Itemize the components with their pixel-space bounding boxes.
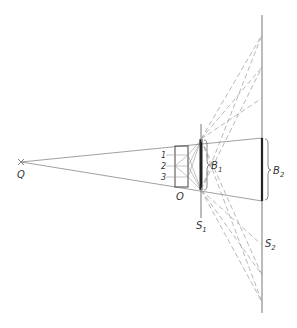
label-row-2: 2	[161, 162, 166, 171]
projection-diagram: Q O 1 2 3 B1 B2 S1 S2	[0, 0, 297, 328]
ray-upper	[21, 138, 262, 162]
label-o: O	[176, 191, 184, 202]
label-b1: B1	[211, 160, 222, 174]
label-s1: S1	[196, 220, 207, 234]
label-row-3: 3	[161, 173, 166, 182]
object-rays	[166, 140, 201, 190]
brace-b2	[265, 139, 271, 200]
label-row-1: 1	[161, 151, 166, 160]
label-s2: S2	[265, 238, 276, 252]
object-o	[175, 146, 188, 187]
ray-lower	[21, 162, 262, 201]
label-q: Q	[17, 169, 25, 180]
label-b2: B2	[273, 165, 285, 179]
